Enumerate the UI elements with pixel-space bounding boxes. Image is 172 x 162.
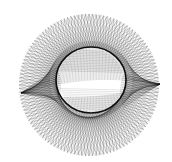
- figure-canvas: Abstract string-art envelope: a circular…: [0, 0, 172, 162]
- string-art-figure: [0, 0, 172, 162]
- inner-hole: [56, 47, 126, 113]
